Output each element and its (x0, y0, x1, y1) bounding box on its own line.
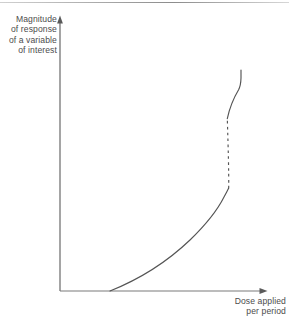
y-axis-arrowhead-icon (57, 16, 63, 24)
y-axis-label: Magnitude of response of a variable of i… (0, 14, 57, 56)
y-axis-label-line-1: Magnitude (0, 14, 57, 24)
x-axis-arrowhead-icon (260, 288, 268, 294)
y-axis-label-line-3: of a variable (0, 35, 57, 45)
dose-response-curve-uncertain (227, 119, 228, 189)
dose-response-curve-lower (110, 188, 229, 291)
dose-response-curve-upper (227, 70, 241, 119)
figure-page: Magnitude of response of a variable of i… (0, 0, 289, 330)
y-axis-label-line-4: of interest (0, 45, 57, 55)
y-axis-label-line-2: of response (0, 24, 57, 34)
x-axis-label: Dose applied per period (196, 296, 286, 317)
x-axis-label-line-1: Dose applied (196, 296, 286, 306)
x-axis-label-line-2: per period (196, 306, 286, 316)
